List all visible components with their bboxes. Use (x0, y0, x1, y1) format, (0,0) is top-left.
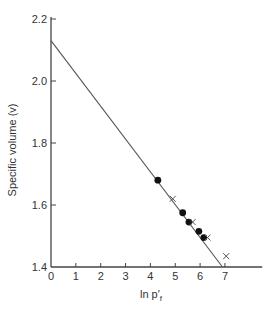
x-tick-label: 4 (147, 270, 153, 282)
x-axis-label: ln p′f (140, 288, 163, 303)
x-tick-label: 2 (98, 270, 104, 282)
x-tick-label: 3 (122, 270, 128, 282)
y-axis-label: Specific volume (v) (6, 104, 18, 197)
y-tick-label: 1.6 (32, 199, 47, 211)
x-tick-label: 0 (48, 270, 54, 282)
x-tick-label: 5 (172, 270, 178, 282)
data-markers (154, 177, 229, 259)
circle-marker (154, 177, 161, 184)
cross-marker (223, 253, 229, 259)
x-tick-label: 1 (73, 270, 79, 282)
circle-marker (195, 228, 202, 235)
y-tick-label: 2.2 (32, 13, 47, 25)
circle-marker (179, 209, 186, 216)
y-tick-label: 2.0 (32, 75, 47, 87)
x-tick-label: 7 (222, 270, 228, 282)
circle-marker (186, 219, 193, 226)
y-tick-label: 1.4 (32, 261, 47, 273)
axes (51, 17, 262, 267)
x-tick-label: 6 (197, 270, 203, 282)
y-tick-label: 1.8 (32, 137, 47, 149)
circle-marker (200, 234, 207, 241)
chart: 012345671.41.61.82.02.2 Specific volume … (0, 0, 276, 314)
